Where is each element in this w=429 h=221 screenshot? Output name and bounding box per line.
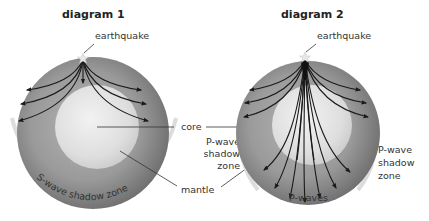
earthquake-leader-2	[306, 44, 316, 52]
p-wave-shadow-label-right-1: P-wave	[378, 144, 412, 155]
p-wave-shadow-label-right-2: shadow	[378, 157, 415, 168]
p-waves-label: P-waves	[289, 192, 328, 203]
diagram-1: diagram 1 earthquake S-wave shadow zone	[12, 8, 176, 209]
seismic-shadow-zone-diagrams: diagram 1 earthquake S-wave shadow zone …	[0, 0, 429, 221]
earthquake-label-2: earthquake	[317, 30, 371, 41]
p-wave-shadow-label-right-3: zone	[378, 170, 401, 181]
p-wave-shadow-label-left-1: P-wave	[206, 136, 240, 147]
core-label: core	[181, 121, 202, 132]
earthquake-leader-1	[84, 44, 94, 53]
p-wave-shadow-label-left-3: zone	[217, 160, 240, 171]
mantle-label: mantle	[181, 184, 214, 195]
p-wave-shadow-label-left-2: shadow	[204, 148, 241, 159]
diagram-2: diagram 2 earthquake	[236, 8, 415, 205]
diagram-2-title: diagram 2	[281, 8, 344, 21]
earthquake-label-1: earthquake	[95, 30, 149, 41]
diagram-1-title: diagram 1	[62, 8, 125, 21]
